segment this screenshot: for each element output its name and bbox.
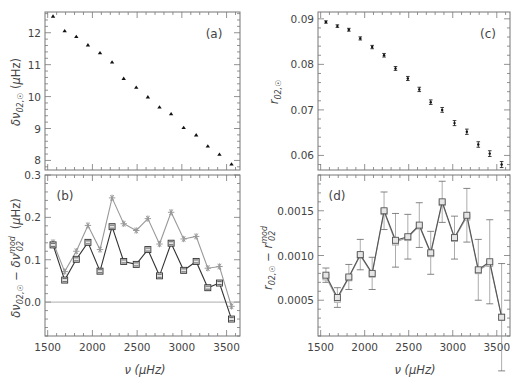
svg-text:r02,☉ − rmod02: r02,☉ − rmod02: [260, 225, 277, 290]
data-point: [348, 29, 350, 31]
y-tick-label: 0.07: [291, 104, 314, 116]
data-point: [416, 222, 422, 228]
data-point: [145, 247, 151, 253]
data-point: [229, 162, 233, 165]
y-tick-label: 0.0: [24, 296, 41, 308]
y-tick-label: 0.0005: [277, 294, 314, 306]
panel-d-r02-residuals: 150020002500300035000.00050.00100.0015: [277, 175, 510, 371]
data-point: [441, 109, 443, 111]
plot-frame: [318, 175, 510, 336]
figure: 89101112 150020002500300035000.00.10.20.…: [0, 0, 517, 382]
y-tick-label: 9: [34, 123, 41, 135]
svg-text:r02,☉: r02,☉: [267, 80, 283, 105]
data-point: [217, 153, 221, 156]
data-point: [464, 212, 470, 218]
data-point: [74, 35, 78, 38]
data-point: [475, 267, 481, 273]
data-point: [383, 54, 385, 56]
y-tick-label: 0.2: [24, 211, 41, 223]
data-point: [229, 316, 235, 322]
data-point: [98, 51, 102, 54]
data-point: [168, 240, 174, 246]
x-tick-label: 2500: [124, 341, 151, 353]
data-point: [325, 21, 327, 23]
data-point: [393, 237, 399, 243]
y-axis-label-d: r02,☉ − rmod02: [260, 225, 277, 290]
y-axis-label-b: δν02,☉ − δνmod02 (μHz): [8, 198, 25, 317]
data-point: [85, 239, 91, 245]
data-point: [86, 43, 90, 46]
data-point: [205, 285, 211, 291]
x-tick-label: 3500: [213, 341, 240, 353]
data-point: [193, 258, 199, 264]
data-point: [453, 122, 455, 124]
x-tick-label: 1500: [34, 341, 61, 353]
svg-text:δν02,☉ (μHz): δν02,☉ (μHz): [9, 58, 25, 126]
data-point: [394, 67, 396, 69]
x-tick-label: 2000: [79, 341, 106, 353]
y-tick-label: 10: [28, 91, 41, 103]
y-tick-label: 0.08: [291, 58, 314, 70]
data-point: [500, 163, 502, 165]
data-point: [499, 314, 505, 320]
y-tick-label: 0.0015: [277, 205, 314, 217]
data-point: [62, 277, 68, 283]
svg-text:δν02,☉ − δνmod02 (μHz): δν02,☉ − δνmod02 (μHz): [8, 198, 25, 317]
data-point: [369, 270, 375, 276]
data-point: [157, 105, 161, 108]
data-point: [134, 86, 138, 89]
x-tick-label: 3000: [439, 341, 466, 353]
x-tick-label: 2500: [395, 341, 422, 353]
x-tick-label: 2000: [351, 341, 378, 353]
data-point: [334, 295, 340, 301]
data-point: [346, 274, 352, 280]
data-point: [206, 144, 210, 147]
y-tick-label: 12: [28, 27, 41, 39]
data-point: [430, 101, 432, 103]
data-point: [405, 234, 411, 240]
y-tick-label: 0.3: [24, 169, 41, 181]
data-point: [489, 152, 491, 154]
data-point: [122, 77, 126, 80]
data-point: [181, 126, 185, 129]
data-point: [97, 268, 103, 274]
y-tick-label: 0.0010: [277, 250, 314, 262]
panel-a-tag: (a): [206, 27, 223, 41]
x-axis-label-left: ν (μHz): [124, 363, 165, 377]
y-tick-label: 8: [34, 154, 41, 166]
data-point: [216, 280, 222, 286]
data-point: [452, 235, 458, 241]
data-point: [418, 88, 420, 90]
data-point: [156, 273, 162, 279]
panel-d-tag: (d): [329, 189, 346, 203]
y-tick-label: 11: [28, 59, 41, 71]
data-point: [487, 259, 493, 265]
data-point: [477, 143, 479, 145]
data-point: [323, 272, 329, 278]
data-point: [73, 256, 79, 262]
y-tick-label: 0.09: [291, 13, 314, 25]
data-point: [407, 77, 409, 79]
data-point: [439, 199, 445, 205]
data-point: [181, 267, 187, 273]
data-point: [357, 252, 363, 258]
data-point: [146, 95, 150, 98]
data-point: [110, 60, 114, 63]
data-point: [194, 133, 198, 136]
panel-c-r02-vs-frequency: 0.060.070.080.09: [291, 12, 510, 170]
data-point: [169, 112, 173, 115]
data-point: [50, 242, 56, 248]
data-point: [121, 258, 127, 264]
data-point: [371, 46, 373, 48]
data-point: [336, 25, 338, 27]
data-point: [133, 261, 139, 267]
data-point: [62, 29, 66, 32]
x-tick-label: 1500: [307, 341, 334, 353]
data-point: [51, 14, 55, 17]
x-tick-label: 3000: [168, 341, 195, 353]
series-line: [53, 227, 231, 319]
y-tick-label: 0.06: [291, 149, 315, 161]
x-axis-label-right: ν (μHz): [394, 363, 435, 377]
data-point: [428, 250, 434, 256]
y-axis-label-a: δν02,☉ (μHz): [9, 58, 25, 126]
